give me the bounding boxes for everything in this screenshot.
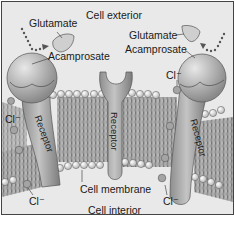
binding-arrow-left (21, 28, 49, 51)
binding-arrow-right (200, 33, 225, 52)
label-chloride-left-top: Cl⁻ (5, 114, 21, 125)
label-chloride-right-top: Cl⁻ (166, 70, 182, 81)
label-glutamate-left: Glutamate (29, 18, 77, 29)
label-acamprosate-left: Acamprosate (48, 51, 110, 62)
label-cell-membrane: Cell membrane (80, 184, 151, 195)
label-cell-exterior: Cell exterior (86, 10, 142, 21)
diagram-frame: Cell exterior Glutamate Acamprosate Glut… (1, 1, 234, 215)
label-acamprosate-right: Acamprosate (125, 44, 187, 55)
label-cell-interior: Cell interior (88, 205, 141, 215)
label-chloride-left-bottom: Cl⁻ (29, 196, 45, 207)
label-chloride-right-bottom: Cl⁻ (163, 196, 179, 207)
label-receptor-center: Receptor (110, 112, 120, 151)
label-glutamate-right: Glutamate (129, 30, 177, 41)
glutamate-molecule-right (182, 25, 200, 41)
